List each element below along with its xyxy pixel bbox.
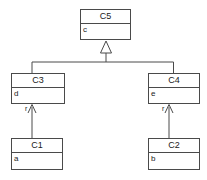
- uml-class-c1[interactable]: C1 a: [11, 138, 63, 170]
- uml-attribute: a: [14, 154, 62, 163]
- uml-class-name-c5: C5: [81, 10, 130, 24]
- uml-attribute: c: [83, 25, 130, 34]
- uml-class-c4[interactable]: C4 e: [148, 73, 200, 104]
- uml-class-name-c2: C2: [149, 139, 199, 153]
- uml-class-name-c1: C1: [12, 139, 62, 153]
- uml-class-attributes-c2: b: [149, 153, 199, 163]
- association-role-label-c2-c4: r: [162, 105, 164, 112]
- uml-class-attributes-c1: a: [12, 153, 62, 163]
- generalization-triangle-c5: [101, 41, 112, 53]
- uml-class-attributes-c4: e: [149, 88, 199, 98]
- uml-attribute: e: [151, 89, 199, 98]
- uml-class-name-c4: C4: [149, 74, 199, 88]
- uml-attribute: d: [14, 89, 64, 98]
- uml-class-attributes-c3: d: [12, 88, 64, 98]
- uml-class-name-c3: C3: [12, 74, 64, 88]
- uml-class-c5[interactable]: C5 c: [80, 9, 131, 40]
- uml-diagram-canvas: C5 c C3 d C4 e C1 a C2 b r r: [0, 0, 207, 180]
- association-role-label-c1-c3: r: [25, 105, 27, 112]
- uml-class-attributes-c5: c: [81, 24, 130, 34]
- uml-class-c3[interactable]: C3 d: [11, 73, 65, 104]
- uml-class-c2[interactable]: C2 b: [148, 138, 200, 170]
- uml-attribute: b: [151, 154, 199, 163]
